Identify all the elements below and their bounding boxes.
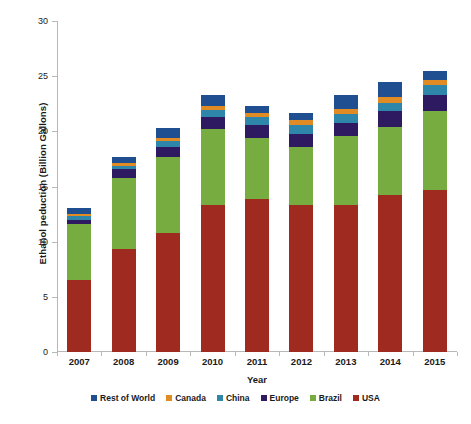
legend-swatch-icon [217,395,223,401]
bar-segment-rest-of-world[interactable] [245,106,269,113]
bar-segment-usa[interactable] [156,233,180,352]
x-axis-label-2013: 2013 [323,356,369,367]
plot-area: 051015202530 [57,21,457,352]
bar-segment-china[interactable] [423,85,447,95]
bar-segment-brazil[interactable] [201,129,225,205]
bar-group-2008[interactable] [112,157,136,352]
legend-label: Brazil [319,393,342,403]
bar-segment-china[interactable] [245,117,269,125]
bar-group-2015[interactable] [423,71,447,352]
bar-segment-usa[interactable] [245,199,269,352]
bar-segment-rest-of-world[interactable] [289,113,313,121]
bar-segment-rest-of-world[interactable] [156,128,180,138]
y-axis-tick-label: 20 [38,126,48,136]
legend-label: Rest of World [100,393,155,403]
legend-item-brazil[interactable]: Brazil [310,393,342,403]
bar-segment-rest-of-world[interactable] [378,82,402,97]
legend-item-china[interactable]: China [217,393,250,403]
chart-legend: Rest of WorldCanadaChinaEuropeBrazilUSA [0,393,471,403]
ethanol-production-stacked-bar-chart: Ethanol peduction (Billion Gallons) 0510… [0,0,471,424]
bar-segment-usa[interactable] [112,249,136,352]
bar-segment-brazil[interactable] [156,157,180,233]
x-axis-label-2011: 2011 [234,356,280,367]
bar-segment-brazil[interactable] [67,224,91,280]
legend-swatch-icon [310,395,316,401]
legend-item-canada[interactable]: Canada [166,393,206,403]
x-axis-label-2009: 2009 [145,356,191,367]
bar-segment-europe[interactable] [334,123,358,136]
bar-segment-europe[interactable] [201,117,225,129]
x-axis-label-2008: 2008 [101,356,147,367]
bar-segment-china[interactable] [378,103,402,112]
bars-layer [57,21,457,352]
legend-item-europe[interactable]: Europe [261,393,299,403]
legend-item-usa[interactable]: USA [353,393,380,403]
x-axis-label-2014: 2014 [367,356,413,367]
bar-group-2012[interactable] [289,113,313,352]
legend-swatch-icon [353,395,359,401]
bar-segment-brazil[interactable] [423,111,447,189]
x-axis-title: Year [57,374,457,385]
bar-segment-rest-of-world[interactable] [201,95,225,106]
bar-group-2014[interactable] [378,82,402,352]
bar-segment-europe[interactable] [112,169,136,178]
x-axis-label-2007: 2007 [56,356,102,367]
y-axis-tick-label: 15 [38,182,48,192]
legend-swatch-icon [166,395,172,401]
bar-segment-china[interactable] [201,110,225,117]
bar-segment-rest-of-world[interactable] [423,71,447,80]
x-axis-label-2010: 2010 [190,356,236,367]
bar-segment-brazil[interactable] [289,147,313,205]
legend-label: USA [362,393,380,403]
bar-segment-europe[interactable] [245,125,269,138]
y-axis-tick-label: 30 [38,16,48,26]
bar-segment-europe[interactable] [156,147,180,157]
legend-label: Europe [270,393,299,403]
legend-label: Canada [175,393,206,403]
bar-segment-europe[interactable] [423,95,447,112]
legend-swatch-icon [261,395,267,401]
bar-group-2007[interactable] [67,208,91,352]
bar-segment-rest-of-world[interactable] [334,95,358,109]
bar-segment-brazil[interactable] [334,136,358,206]
bar-group-2010[interactable] [201,95,225,352]
legend-swatch-icon [91,395,97,401]
bar-segment-usa[interactable] [378,195,402,352]
bar-segment-usa[interactable] [423,190,447,352]
y-axis-tick-label: 25 [38,71,48,81]
bar-segment-rest-of-world[interactable] [67,208,91,215]
bar-segment-usa[interactable] [289,205,313,352]
x-axis-labels: 200720082009201020112012201320142015 [57,356,457,372]
y-axis-tick-label: 5 [43,292,48,302]
bar-segment-china[interactable] [289,125,313,134]
bar-group-2013[interactable] [334,95,358,352]
bar-segment-europe[interactable] [378,111,402,126]
bar-segment-usa[interactable] [67,280,91,352]
bar-segment-rest-of-world[interactable] [112,157,136,164]
bar-segment-china[interactable] [334,114,358,123]
bar-segment-usa[interactable] [334,205,358,352]
bar-segment-brazil[interactable] [112,178,136,250]
legend-item-rest-of-world[interactable]: Rest of World [91,393,155,403]
bar-segment-europe[interactable] [289,134,313,147]
bar-segment-brazil[interactable] [245,138,269,199]
bar-group-2009[interactable] [156,128,180,352]
y-axis-tick-label: 10 [38,237,48,247]
bar-segment-usa[interactable] [201,205,225,352]
bar-segment-brazil[interactable] [378,127,402,195]
x-axis-label-2015: 2015 [412,356,458,367]
y-axis-tick-label: 0 [43,347,48,357]
legend-label: China [226,393,250,403]
bar-group-2011[interactable] [245,106,269,352]
x-axis-label-2012: 2012 [278,356,324,367]
